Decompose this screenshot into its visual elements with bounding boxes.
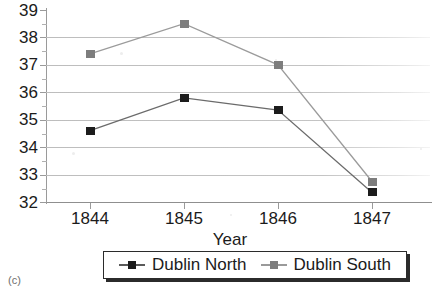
y-tick-label: 37 <box>0 56 38 73</box>
y-tick-label: 36 <box>0 84 38 101</box>
legend-label-dublin-south: Dublin South <box>294 256 391 274</box>
y-axis-labels: 39 38 37 36 35 34 33 32 <box>0 0 38 299</box>
y-tick-label: 38 <box>0 29 38 46</box>
legend-label-dublin-north: Dublin North <box>152 256 247 274</box>
series-line-dublin-south <box>90 24 372 182</box>
y-tick-label: 33 <box>0 166 38 183</box>
y-axis-tick <box>40 202 47 203</box>
y-tick-label: 34 <box>0 139 38 156</box>
x-tick-label: 1847 <box>332 210 412 228</box>
x-tick-label: 1845 <box>144 210 224 228</box>
scan-speckle <box>230 214 232 216</box>
data-point-dublin-south-1846 <box>274 61 283 69</box>
legend-marker-dublin-south-icon <box>261 260 287 270</box>
legend-item-dublin-south[interactable]: Dublin South <box>254 256 398 274</box>
data-point-dublin-north-1847 <box>368 188 377 196</box>
series-lines <box>46 10 430 202</box>
data-point-dublin-south-1845 <box>180 20 189 28</box>
figure-caption: (c) <box>8 274 21 286</box>
x-axis-line <box>40 202 432 203</box>
y-tick-label: 39 <box>0 2 38 19</box>
data-point-dublin-south-1844 <box>86 50 95 58</box>
legend-item-dublin-north[interactable]: Dublin North <box>112 256 254 274</box>
data-point-dublin-north-1844 <box>86 127 95 135</box>
x-axis-title-text: Year <box>213 231 247 249</box>
plot-area <box>46 10 430 202</box>
x-axis-title: Year <box>0 231 442 249</box>
x-tick-label: 1846 <box>238 210 318 228</box>
x-tick-label: 1844 <box>50 210 130 228</box>
y-tick-label: 32 <box>0 194 38 211</box>
y-tick-label: 35 <box>0 111 38 128</box>
series-line-dublin-north <box>90 98 372 193</box>
legend-marker-dublin-north-icon <box>119 260 145 270</box>
figure-panel: 39 38 37 36 35 34 33 32 <box>0 0 442 299</box>
chart-legend: Dublin North Dublin South <box>103 251 407 279</box>
data-point-dublin-north-1845 <box>180 94 189 102</box>
data-point-dublin-north-1846 <box>274 106 283 114</box>
data-point-dublin-south-1847 <box>368 178 377 186</box>
